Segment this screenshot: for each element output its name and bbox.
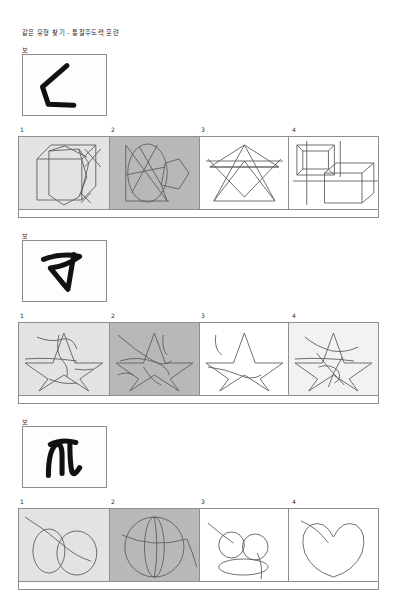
example-figure-3 (22, 426, 107, 488)
choice-number-3: 3 (201, 126, 205, 133)
choice-number-3: 3 (201, 498, 205, 505)
choice-number-1: 1 (20, 498, 24, 505)
choice-cell-3-2[interactable] (109, 509, 199, 581)
choice-cell-1-2[interactable] (109, 137, 199, 209)
choice-number-2: 2 (111, 498, 115, 505)
choice-cell-1-1[interactable] (19, 137, 109, 209)
nested-boxes (289, 137, 378, 209)
choice-number-2: 2 (111, 126, 115, 133)
choices-row-3: 1 2 3 4 (18, 498, 379, 590)
choice-number-4: 4 (292, 498, 296, 505)
choice-baseline-3 (18, 582, 379, 590)
choice-cells-2 (18, 322, 379, 396)
star-with-scribbles-c (289, 323, 378, 395)
choice-cell-3-1[interactable] (19, 509, 109, 581)
worksheet-page: 같은 유형 찾기 - 통찰주도력 훈련 보기 1 2 3 4 (0, 0, 397, 595)
circles-on-ellipse (200, 509, 289, 581)
choices-row-1: 1 2 3 4 (18, 126, 379, 218)
choice-baseline-1 (18, 210, 379, 218)
choice-number-3: 3 (201, 312, 205, 319)
choice-cell-3-4[interactable] (288, 509, 378, 581)
angular-bracket-glyph (23, 55, 106, 115)
choices-row-2: 1 2 3 4 (18, 312, 379, 404)
example-figure-1 (22, 54, 107, 116)
star-plain (200, 323, 289, 395)
choice-baseline-2 (18, 396, 379, 404)
choice-numbers-1: 1 2 3 4 (18, 126, 379, 136)
cube-wireframe (19, 137, 109, 209)
star-with-scribbles-a (19, 323, 109, 395)
choice-cell-3-3[interactable] (199, 509, 289, 581)
choice-cells-3 (18, 508, 379, 582)
m-curve-glyph (23, 427, 106, 487)
choice-number-4: 4 (292, 126, 296, 133)
choice-cell-2-2[interactable] (109, 323, 199, 395)
choice-cell-2-4[interactable] (288, 323, 378, 395)
example-figure-2 (22, 240, 107, 302)
page-title: 같은 유형 찾기 - 통찰주도력 훈련 (22, 28, 119, 37)
choice-number-1: 1 (20, 126, 24, 133)
choice-cell-1-4[interactable] (288, 137, 378, 209)
choice-number-2: 2 (111, 312, 115, 319)
ellipse-polygon-overlay (110, 137, 199, 209)
sphere-meridians (110, 509, 199, 581)
choice-numbers-2: 1 2 3 4 (18, 312, 379, 322)
choice-cell-1-3[interactable] (199, 137, 289, 209)
z-arrow-glyph (23, 241, 106, 301)
star-with-scribbles-b (110, 323, 199, 395)
choice-number-1: 1 (20, 312, 24, 319)
choice-cells-1 (18, 136, 379, 210)
heart-outline (289, 509, 378, 581)
choice-cell-2-1[interactable] (19, 323, 109, 395)
choice-number-4: 4 (292, 312, 296, 319)
choice-cell-2-3[interactable] (199, 323, 289, 395)
choice-numbers-3: 1 2 3 4 (18, 498, 379, 508)
two-ellipses-crossed (19, 509, 109, 581)
triangle-lattice (200, 137, 289, 209)
